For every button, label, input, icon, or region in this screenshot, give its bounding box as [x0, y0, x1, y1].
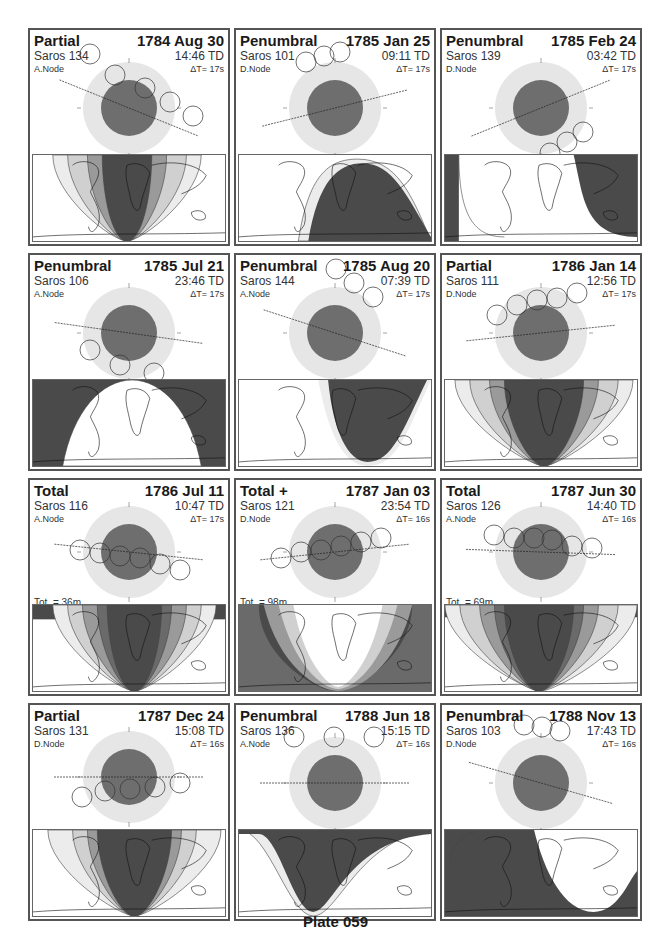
world-map-visibility — [33, 155, 225, 241]
eclipse-time: 07:39 TD — [381, 274, 430, 288]
eclipse-time: 03:42 TD — [587, 49, 636, 63]
eclipse-time: 14:40 TD — [587, 499, 636, 513]
panel-header: Partial 1787 Dec 24 Saros 131 15:08 TD D… — [34, 707, 224, 819]
eclipse-panel: Penumbral 1785 Jan 25 Saros 101 09:11 TD… — [234, 28, 436, 246]
saros-number: Saros 144 — [240, 274, 295, 288]
eclipse-panel: Penumbral 1785 Feb 24 Saros 139 03:42 TD… — [440, 28, 642, 246]
visibility-map — [444, 154, 638, 242]
eclipse-type: Total — [34, 482, 69, 499]
eclipse-type: Penumbral — [446, 32, 524, 49]
delta-t: ΔT= 17s — [602, 289, 636, 299]
saros-number: Saros 106 — [34, 274, 89, 288]
eclipse-panel: Penumbral 1788 Nov 13 Saros 103 17:43 TD… — [440, 703, 642, 921]
panel-header: Total 1786 Jul 11 Saros 116 10:47 TD A.N… — [34, 482, 224, 594]
eclipse-panel: Total + 1787 Jan 03 Saros 121 23:54 TD D… — [234, 478, 436, 696]
eclipse-type: Partial — [34, 32, 80, 49]
eclipse-type: Penumbral — [240, 32, 318, 49]
eclipse-panel: Partial 1784 Aug 30 Saros 134 14:46 TD A… — [28, 28, 230, 246]
eclipse-time: 12:56 TD — [587, 274, 636, 288]
eclipse-type: Partial — [34, 707, 80, 724]
eclipse-time: 09:11 TD — [382, 49, 430, 63]
visibility-map — [32, 604, 226, 692]
eclipse-type: Penumbral — [240, 257, 318, 274]
delta-t: ΔT= 17s — [190, 289, 224, 299]
eclipse-panel: Penumbral 1785 Jul 21 Saros 106 23:46 TD… — [28, 253, 230, 471]
saros-number: Saros 134 — [34, 49, 89, 63]
world-map-visibility — [445, 380, 637, 466]
delta-t: ΔT= 17s — [602, 64, 636, 74]
eclipse-date: 1785 Aug 20 — [343, 257, 430, 274]
eclipse-date: 1788 Nov 13 — [549, 707, 636, 724]
world-map-visibility — [33, 605, 225, 691]
world-map-visibility — [445, 605, 637, 691]
visibility-map — [238, 379, 432, 467]
eclipse-panel: Total 1787 Jun 30 Saros 126 14:40 TD A.N… — [440, 478, 642, 696]
delta-t: ΔT= 16s — [396, 739, 430, 749]
node-label: D.Node — [446, 289, 477, 299]
delta-t: ΔT= 16s — [190, 739, 224, 749]
visibility-map — [238, 829, 432, 917]
node-label: A.Node — [240, 289, 270, 299]
eclipse-type: Penumbral — [446, 707, 524, 724]
panel-header: Penumbral 1788 Nov 13 Saros 103 17:43 TD… — [446, 707, 636, 819]
world-map-visibility — [239, 155, 431, 241]
delta-t: ΔT= 17s — [396, 289, 430, 299]
world-map-visibility — [33, 380, 225, 466]
delta-t: ΔT= 16s — [396, 514, 430, 524]
eclipse-time: 17:43 TD — [587, 724, 636, 738]
eclipse-date: 1785 Jan 25 — [346, 32, 430, 49]
eclipse-type: Partial — [446, 257, 492, 274]
saros-number: Saros 139 — [446, 49, 501, 63]
saros-number: Saros 136 — [240, 724, 295, 738]
world-map-visibility — [445, 155, 637, 241]
panel-header: Total 1787 Jun 30 Saros 126 14:40 TD A.N… — [446, 482, 636, 594]
visibility-map — [32, 379, 226, 467]
node-label: A.Node — [34, 64, 64, 74]
eclipse-panel: Partial 1787 Dec 24 Saros 131 15:08 TD D… — [28, 703, 230, 921]
visibility-map — [32, 829, 226, 917]
world-map-visibility — [239, 605, 431, 691]
saros-number: Saros 131 — [34, 724, 89, 738]
delta-t: ΔT= 17s — [190, 64, 224, 74]
eclipse-time: 15:08 TD — [175, 724, 224, 738]
eclipse-type: Penumbral — [34, 257, 112, 274]
eclipse-date: 1785 Jul 21 — [144, 257, 224, 274]
node-label: D.Node — [34, 739, 65, 749]
visibility-map — [444, 379, 638, 467]
delta-t: ΔT= 16s — [602, 739, 636, 749]
node-label: D.Node — [240, 514, 271, 524]
world-map-visibility — [239, 380, 431, 466]
world-map-visibility — [239, 830, 431, 916]
node-label: D.Node — [446, 64, 477, 74]
eclipse-date: 1787 Jan 03 — [346, 482, 430, 499]
eclipse-date: 1787 Jun 30 — [551, 482, 636, 499]
eclipse-date: 1787 Dec 24 — [138, 707, 224, 724]
panel-header: Penumbral 1785 Jul 21 Saros 106 23:46 TD… — [34, 257, 224, 369]
saros-number: Saros 116 — [34, 499, 88, 513]
eclipse-plate-grid: Partial 1784 Aug 30 Saros 134 14:46 TD A… — [28, 28, 642, 921]
node-label: A.Node — [34, 289, 64, 299]
eclipse-time: 10:47 TD — [175, 499, 224, 513]
panel-header: Penumbral 1788 Jun 18 Saros 136 15:15 TD… — [240, 707, 430, 819]
world-map-visibility — [445, 830, 637, 916]
eclipse-panel: Total 1786 Jul 11 Saros 116 10:47 TD A.N… — [28, 478, 230, 696]
eclipse-date: 1786 Jul 11 — [145, 482, 224, 499]
plate-title: Plate 059 — [0, 913, 671, 930]
panel-header: Partial 1784 Aug 30 Saros 134 14:46 TD A… — [34, 32, 224, 144]
saros-number: Saros 103 — [446, 724, 501, 738]
eclipse-time: 23:46 TD — [175, 274, 224, 288]
eclipse-panel: Penumbral 1788 Jun 18 Saros 136 15:15 TD… — [234, 703, 436, 921]
delta-t: ΔT= 16s — [602, 514, 636, 524]
panel-header: Penumbral 1785 Aug 20 Saros 144 07:39 TD… — [240, 257, 430, 369]
panel-header: Penumbral 1785 Jan 25 Saros 101 09:11 TD… — [240, 32, 430, 144]
world-map-visibility — [33, 830, 225, 916]
saros-number: Saros 101 — [240, 49, 295, 63]
panel-header: Total + 1787 Jan 03 Saros 121 23:54 TD D… — [240, 482, 430, 594]
eclipse-type: Total — [446, 482, 481, 499]
node-label: D.Node — [446, 739, 477, 749]
visibility-map — [32, 154, 226, 242]
eclipse-type: Penumbral — [240, 707, 318, 724]
eclipse-panel: Partial 1786 Jan 14 Saros 111 12:56 TD D… — [440, 253, 642, 471]
visibility-map — [238, 154, 432, 242]
node-label: D.Node — [240, 64, 271, 74]
